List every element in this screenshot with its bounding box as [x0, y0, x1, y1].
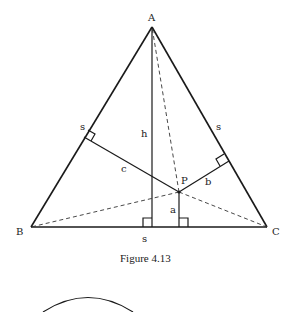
right-angle-marker-a: [179, 218, 188, 227]
equilateral-triangle-diagram: A B C P s s s h a b c Figure 4.13: [0, 0, 293, 312]
dashed-pc: [179, 192, 267, 227]
next-figure-arc: [43, 298, 133, 312]
label-c: C: [272, 226, 280, 237]
label-a: A: [147, 12, 156, 23]
right-angle-marker-altitude: [143, 218, 152, 227]
label-altitude-h: h: [141, 128, 148, 139]
label-b: b: [205, 176, 211, 187]
side-ab: [31, 27, 152, 227]
label-a: a: [170, 204, 176, 215]
figure-caption: Figure 4.13: [120, 252, 171, 264]
side-ac: [152, 27, 267, 227]
label-c: c: [121, 163, 127, 174]
point-p: [177, 190, 180, 193]
label-side-ab: s: [80, 121, 85, 132]
label-side-ac: s: [216, 121, 221, 132]
label-p: P: [181, 175, 188, 186]
label-side-bc: s: [142, 233, 147, 244]
label-b: B: [16, 226, 23, 237]
dashed-pb: [31, 192, 179, 227]
perpendicular-c: [84, 137, 179, 192]
